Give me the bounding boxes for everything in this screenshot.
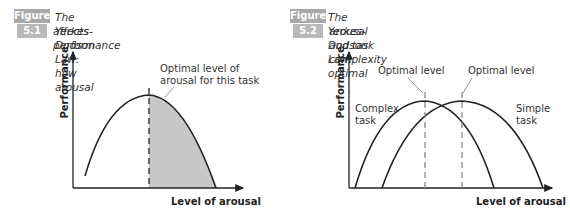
complex-task-label-line1: Complex xyxy=(355,103,399,115)
diagrams-canvas xyxy=(0,0,570,217)
x-axis-label: Level of arousal xyxy=(171,196,261,207)
annotation-line1: Optimal level of xyxy=(160,63,259,75)
y-axis-label-wrap-right: Performance xyxy=(331,50,345,120)
annotation-leader xyxy=(165,87,174,97)
annotation-leader-left xyxy=(408,78,423,93)
annotation-optimal: Optimal level of arousal for this task xyxy=(160,63,259,87)
annotation-optimal-left: Optimal level xyxy=(378,65,445,76)
y-axis-label: Performance xyxy=(335,49,346,119)
annotation-line2: arousal for this task xyxy=(160,75,259,87)
simple-task-label-line1: Simple xyxy=(516,103,550,115)
shaded-region xyxy=(149,95,216,188)
simple-task-label: Simple task xyxy=(516,103,550,127)
y-axis-label: Performance xyxy=(59,49,70,119)
annotation-optimal-right: Optimal level xyxy=(468,65,535,76)
annotation-leader-right xyxy=(463,78,472,93)
simple-task-label-line2: task xyxy=(516,115,550,127)
complex-task-label-line2: task xyxy=(355,115,399,127)
complex-task-label: Complex task xyxy=(355,103,399,127)
y-axis-label-wrap-left: Performance xyxy=(55,50,69,120)
x-axis-label: Level of arousal xyxy=(476,196,566,207)
